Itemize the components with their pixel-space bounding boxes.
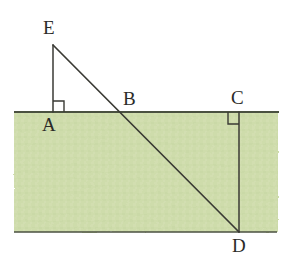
vertex-label-A: A: [42, 115, 56, 134]
vertex-label-C: C: [231, 88, 244, 107]
vertex-label-E: E: [43, 18, 55, 37]
vertex-label-B: B: [123, 89, 136, 108]
right-angle-mark-at-A: [53, 101, 64, 112]
vertex-label-D: D: [232, 236, 246, 255]
geometry-figure: E A B C D: [0, 0, 284, 262]
